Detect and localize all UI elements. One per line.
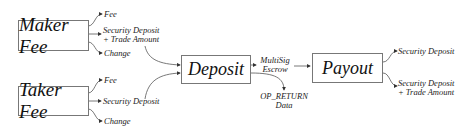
payout-node: Payout <box>312 53 383 83</box>
payout-security-trade-label: Security Deposit + Trade Amount <box>398 79 454 97</box>
taker-fee-node: Taker Fee <box>18 86 89 116</box>
multisig-escrow-label: MultiSig Escrow <box>256 56 294 74</box>
maker-fee-node: Maker Fee <box>18 20 89 51</box>
maker-security-deposit-label: Security Deposit + Trade Amount <box>103 26 159 44</box>
payout-security-deposit-label: Security Deposit <box>398 47 454 56</box>
maker-change-label: Change <box>104 49 130 58</box>
maker-fee-output-label: Fee <box>104 10 117 19</box>
multisig-line2: Escrow <box>256 65 294 74</box>
op-return-line2: Data <box>258 101 310 110</box>
taker-change-label: Change <box>104 117 130 126</box>
taker-fee-output-label: Fee <box>104 76 117 85</box>
op-return-label: OP_RETURN Data <box>258 92 310 110</box>
payout-security-trade-line2: + Trade Amount <box>398 88 454 97</box>
taker-security-deposit-label: Security Deposit <box>103 97 159 106</box>
deposit-node: Deposit <box>181 55 251 84</box>
maker-security-deposit-line2: + Trade Amount <box>103 35 159 44</box>
